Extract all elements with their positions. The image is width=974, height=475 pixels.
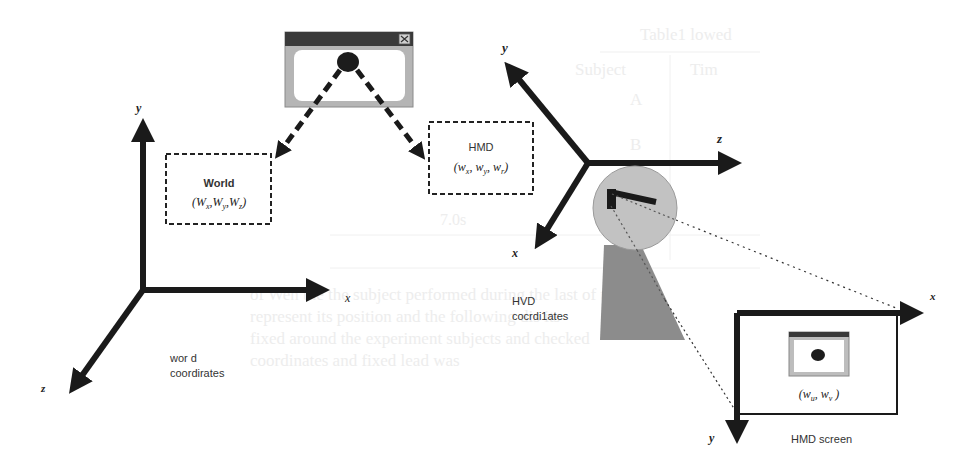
hmd-coordinate-box: HMD (wx, wy, wr) <box>429 122 533 194</box>
ghost-table-cell: B <box>630 135 641 154</box>
screen-x-label: x <box>929 290 936 302</box>
screen-y-label: y <box>707 431 715 445</box>
hmd-y-label: y <box>500 40 508 55</box>
hmd-x-label: x <box>511 246 518 260</box>
screen-coords: (wu, wv ) <box>799 387 840 403</box>
diagram-svg: Table1 lowed Subject Tim A B 7.0s of Wen… <box>0 0 974 475</box>
hmd-z-label: z <box>716 131 723 146</box>
screen-caption: HMD screen <box>791 433 852 445</box>
screen-window-icon <box>789 332 849 376</box>
world-z-axis <box>76 290 143 384</box>
sight-line-to-screen-bottom <box>665 300 735 410</box>
ghost-table-title: Table1 lowed <box>640 25 732 44</box>
hmd-screen: x y (wu, wv ) HMD screen <box>707 290 936 445</box>
hmd-caption-line1: HVD <box>512 295 535 307</box>
hmd-box-coords: (wx, wy, wr) <box>454 160 508 176</box>
world-box-coords: (Wx,Wy,Wz) <box>192 195 246 211</box>
world-coordinate-box: World (Wx,Wy,Wz) <box>166 154 271 224</box>
ghost-table-cell: A <box>630 90 643 109</box>
world-y-label: y <box>134 101 142 115</box>
hmd-x-axis <box>541 163 588 239</box>
ghost-paragraph-line: coordinates and fixed lead was <box>250 351 460 370</box>
screen-dot <box>811 349 825 361</box>
sight-line-to-screen-top <box>676 220 896 308</box>
diagram-canvas: Table1 lowed Subject Tim A B 7.0s of Wen… <box>0 0 974 475</box>
world-caption-line1: wor d <box>169 352 197 364</box>
ghost-table-cell: Subject <box>575 60 626 79</box>
world-box-title: World <box>204 177 235 189</box>
ghost-table-value: 7.0s <box>440 211 466 228</box>
hmd-caption-line2: cocrdi1ates <box>512 310 569 322</box>
source-dot <box>337 52 359 72</box>
source-window-icon <box>285 32 413 107</box>
ghost-paragraph-line: fixed around the experiment subjects and… <box>250 329 590 348</box>
user-head <box>593 166 677 250</box>
hmd-box-title: HMD <box>468 141 493 153</box>
ghost-table-cell: Tim <box>690 60 718 79</box>
world-z-label: z <box>40 382 46 394</box>
world-caption-line2: coordirates <box>170 367 225 379</box>
world-x-label: x <box>344 291 351 305</box>
